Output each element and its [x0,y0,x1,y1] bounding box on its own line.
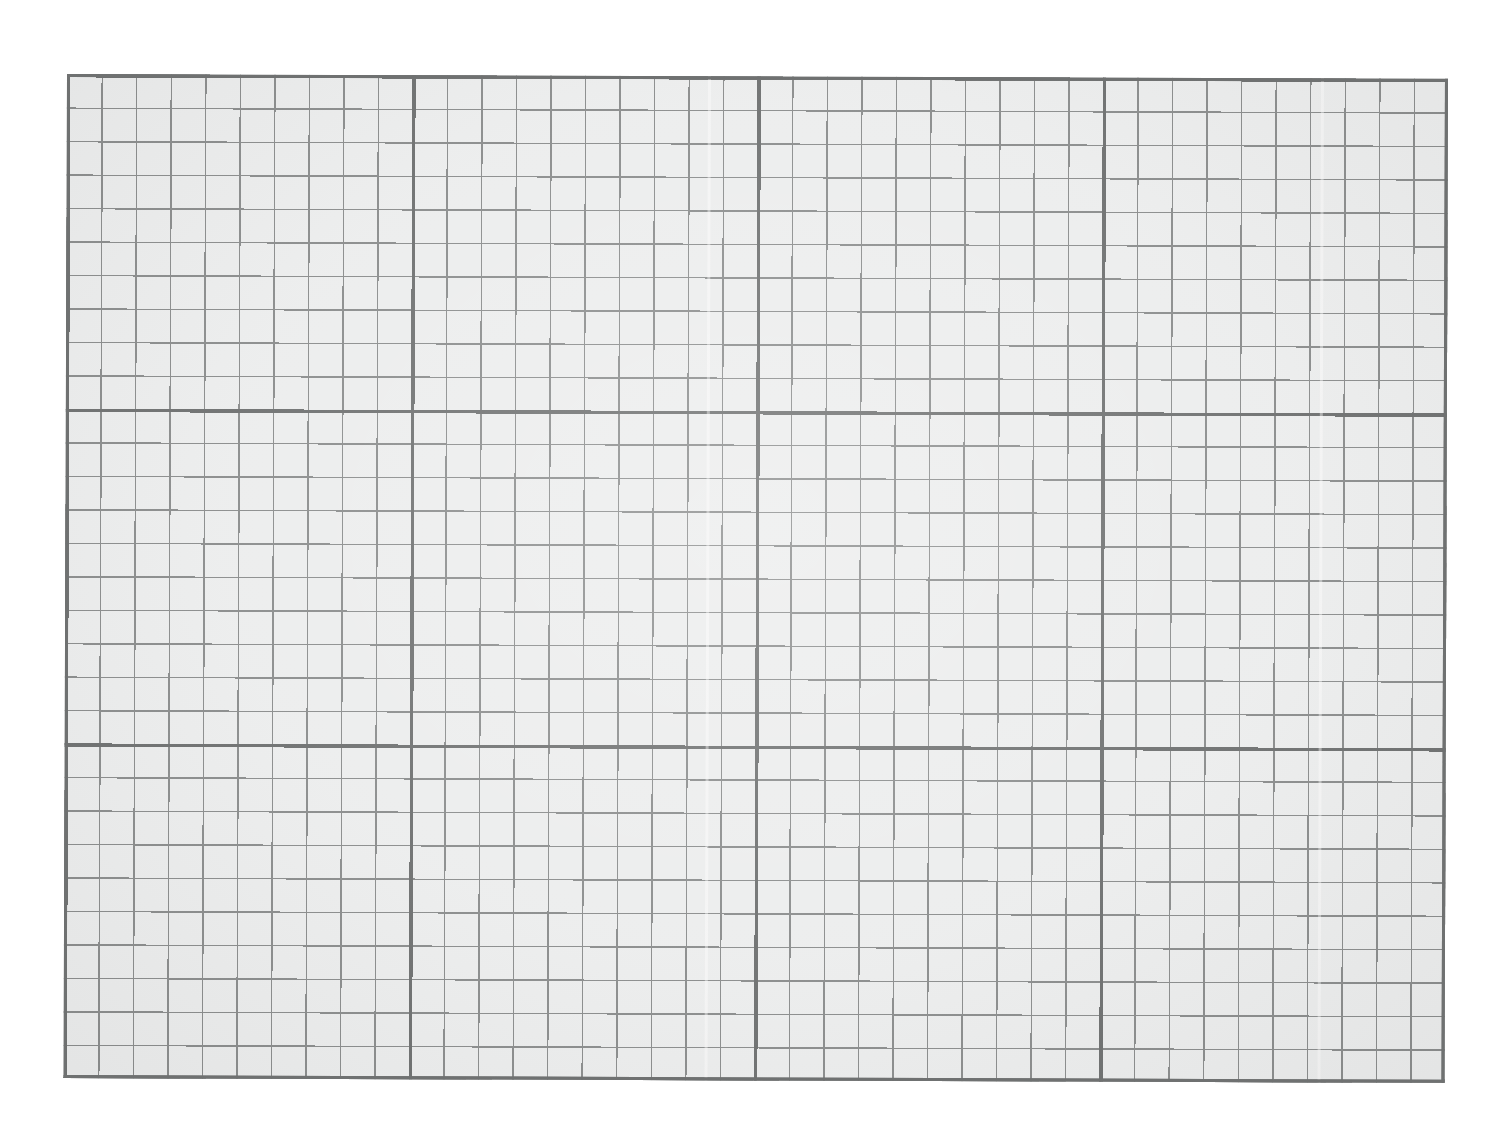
major-gridlines [63,74,1447,1083]
scanned-sheet-area [0,0,1493,1127]
graph-paper-page [0,0,1493,1127]
graph-paper-sheet [63,74,1447,1083]
